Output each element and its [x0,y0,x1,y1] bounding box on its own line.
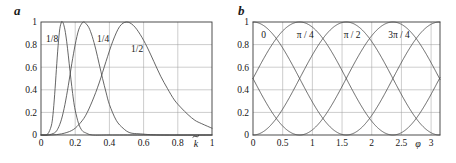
x-tick-label: 2.5 [395,138,407,148]
y-tick-label: 0 [32,130,37,140]
y-tick-label: 0.2 [237,108,249,118]
x-axis-title-phi: φ [415,138,421,149]
x-tick-label: 0.6 [138,138,150,148]
curve-1-8 [41,21,212,135]
x-tick-label: 0 [251,138,256,148]
panel-a: a 00.20.40.60.8100.20.40.60.811/81/41/2k [0,0,228,163]
curve-label-pi-2: π / 2 [344,30,361,40]
x-tick-label: 1.5 [336,138,348,148]
x-tick-label: 0.2 [69,138,81,148]
x-tick-label: 2 [369,138,374,148]
y-tick-label: 1 [32,17,37,27]
curves-group [41,21,212,135]
y-tick-label: 0.8 [237,40,249,50]
curve-label-0: 0 [261,30,266,40]
y-tick-label: 0 [244,130,249,140]
curve-label-pi-4: π / 4 [297,30,314,40]
x-tick-label: 0.4 [103,138,115,148]
panel-a-plot: 00.20.40.60.8100.20.40.60.811/81/41/2k [0,0,228,163]
y-tick-label: 0.4 [25,85,37,95]
panel-b: b 00.511.522.5300.20.40.60.810π / 4π / 2… [228,0,456,163]
figure-root: a 00.20.40.60.8100.20.40.60.811/81/41/2k… [0,0,456,163]
curve-label-1-8: 1/8 [46,34,58,44]
y-tick-label: 1 [244,17,249,27]
curve-label-1-2: 1/2 [131,44,143,54]
x-tick-label: 0.5 [277,138,289,148]
x-tick-label: 3 [429,138,434,148]
y-tick-label: 0.2 [25,108,37,118]
y-tick-label: 0.6 [237,63,249,73]
y-tick-label: 0.6 [25,63,37,73]
x-axis-title-a: k [193,136,199,150]
y-tick-label: 0.8 [25,40,37,50]
curve-label-3pi-4: 3π / 4 [388,30,410,40]
x-tick-label: 1 [210,138,215,148]
curve-label-1-4: 1/4 [97,34,109,44]
x-tick-label: 0.8 [172,138,184,148]
panel-b-plot: 00.511.522.5300.20.40.60.810π / 4π / 23π… [228,0,456,163]
x-tick-label: 0 [39,138,44,148]
y-tick-label: 0.4 [237,85,249,95]
x-tick-label: 1 [310,138,315,148]
x-axis-title-label: k [194,138,199,149]
